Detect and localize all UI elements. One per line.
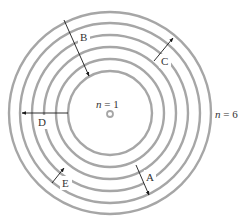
orbit-n2 [56,59,164,167]
nucleus-icon [107,111,113,117]
bohr-model-diagram [0,0,247,222]
transition-label-c: C [161,56,168,67]
orbit-n1 [68,71,152,155]
transition-label-a: A [146,172,154,183]
inner-orbit-value: = 1 [102,98,119,110]
transition-label-d: D [38,117,46,128]
inner-orbit-label: n = 1 [96,99,119,110]
transition-label-b: B [80,32,87,43]
outer-orbit-label: n = 6 [215,109,238,120]
transition-label-e: E [62,178,69,189]
outer-orbit-value: = 6 [221,108,238,120]
